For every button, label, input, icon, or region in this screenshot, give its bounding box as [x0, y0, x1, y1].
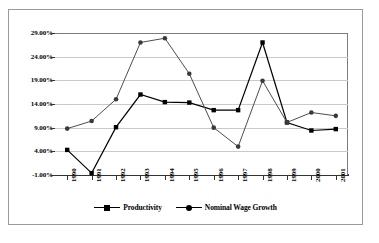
x-tick-label: 1990 [70, 168, 78, 182]
x-tick-label: 1993 [143, 168, 151, 182]
series-line-productivity [67, 42, 336, 173]
x-tick-label: 1991 [95, 168, 103, 182]
data-point-marker [138, 40, 143, 45]
data-point-marker [65, 148, 69, 152]
x-tick-mark [263, 176, 264, 180]
plot-area [55, 33, 348, 175]
data-point-marker [114, 97, 119, 102]
x-tick-mark [116, 176, 117, 180]
x-tick-label: 1994 [168, 168, 176, 182]
legend-item-nominal-wage-growth[interactable]: Nominal Wage Growth [176, 203, 277, 212]
x-tick-label: 1992 [119, 168, 127, 182]
data-point-marker [334, 127, 338, 131]
legend-swatch-circle-icon [176, 203, 202, 212]
x-tick-label: 2000 [314, 168, 322, 182]
data-point-marker [138, 92, 142, 96]
chart-legend: Productivity Nominal Wage Growth [8, 203, 363, 212]
data-point-marker [89, 171, 93, 175]
data-point-marker [114, 125, 118, 129]
x-tick-mark [214, 176, 215, 180]
x-tick-mark [140, 176, 141, 180]
x-tick-mark [336, 176, 337, 180]
data-point-marker [309, 128, 313, 132]
legend-swatch-square-icon [94, 203, 120, 212]
x-tick-mark [311, 176, 312, 180]
data-point-marker [89, 119, 94, 124]
data-point-marker [285, 120, 290, 125]
data-point-marker [309, 110, 314, 115]
data-point-marker [163, 100, 167, 104]
x-tick-mark [165, 176, 166, 180]
x-tick-mark [189, 176, 190, 180]
x-tick-mark [287, 176, 288, 180]
data-point-marker [65, 126, 70, 131]
data-point-marker [236, 144, 241, 149]
x-tick-mark [67, 176, 68, 180]
x-tick-label: 1998 [266, 168, 274, 182]
legend-label-productivity: Productivity [123, 203, 162, 212]
x-tick-label: 2001 [339, 168, 347, 182]
legend-label-nominal-wage-growth: Nominal Wage Growth [205, 203, 277, 212]
data-point-marker [260, 79, 265, 84]
y-tick-label: -1.00% [32, 171, 53, 179]
y-tick-label: 19.00% [31, 76, 53, 84]
data-point-marker [260, 40, 264, 44]
x-tick-label: 1999 [290, 168, 298, 182]
x-tick-mark [92, 176, 93, 180]
legend-item-productivity[interactable]: Productivity [94, 203, 162, 212]
data-point-marker [236, 108, 240, 112]
series-line-nominal-wage-growth [67, 38, 336, 146]
y-tick-label: 24.00% [31, 53, 53, 61]
y-tick-label: 14.00% [31, 100, 53, 108]
data-point-marker [211, 125, 216, 130]
y-tick-label: 29.00% [31, 29, 53, 37]
x-tick-mark [238, 176, 239, 180]
x-tick-label: 1997 [241, 168, 249, 182]
x-tick-label: 1996 [217, 168, 225, 182]
data-point-marker [333, 114, 338, 119]
chart-figure: 29.00%24.00%19.00%14.00%9.00%4.00%-1.00%… [0, 0, 379, 243]
data-point-marker [187, 100, 191, 104]
series-layer [55, 33, 348, 175]
data-point-marker [163, 36, 168, 41]
data-point-marker [212, 108, 216, 112]
x-tick-label: 1995 [192, 168, 200, 182]
data-point-marker [187, 71, 192, 76]
